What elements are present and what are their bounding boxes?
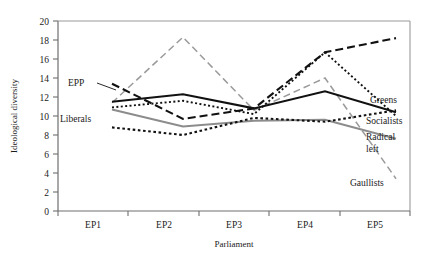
x-axis-title: Parliament — [215, 239, 254, 249]
x-cat-ep3: EP3 — [226, 220, 242, 230]
series-label-greens: Greens — [370, 95, 397, 105]
series-line-radical-left — [112, 109, 396, 138]
line-chart: 0 2 4 6 8 10 12 14 16 18 20 EP1 EP2 EP3 … — [0, 0, 437, 255]
series-label-radical-left-line1: Radical — [366, 132, 395, 142]
y-tick-4: 4 — [44, 169, 49, 179]
y-tick-2: 2 — [44, 188, 49, 198]
series-label-socialists: Socialists — [366, 116, 403, 126]
x-cat-ep5: EP5 — [367, 220, 383, 230]
series-lines — [112, 37, 396, 179]
x-cat-ep1: EP1 — [85, 220, 101, 230]
x-axis-category-labels: EP1 EP2 EP3 EP4 EP5 — [85, 220, 383, 230]
series-line-epp — [112, 38, 396, 119]
series-line-liberals — [112, 52, 396, 116]
y-tick-14: 14 — [40, 74, 50, 84]
series-label-liberals: Liberals — [60, 114, 91, 124]
y-tick-10: 10 — [40, 112, 50, 122]
y-tick-18: 18 — [40, 36, 50, 46]
y-axis-tick-labels: 0 2 4 6 8 10 12 14 16 18 20 — [40, 17, 50, 217]
y-tick-6: 6 — [44, 150, 49, 160]
y-tick-12: 12 — [40, 93, 50, 103]
x-axis-ticks — [58, 211, 410, 216]
series-label-radical-left-line2: left — [366, 144, 379, 154]
x-cat-ep4: EP4 — [297, 220, 313, 230]
y-tick-0: 0 — [44, 207, 49, 217]
y-tick-16: 16 — [40, 55, 50, 65]
y-axis-ticks — [53, 21, 58, 211]
series-line-greens — [112, 91, 396, 112]
x-cat-ep2: EP2 — [156, 220, 172, 230]
y-tick-8: 8 — [44, 131, 49, 141]
series-label-gaullists: Gaullists — [350, 178, 384, 188]
series-line-socialists — [112, 110, 396, 135]
series-labels: EPP Liberals Greens Socialists Radical l… — [60, 78, 403, 188]
y-axis-title: Ideological diversity — [9, 78, 19, 153]
y-tick-20: 20 — [40, 17, 50, 27]
chart-container: 0 2 4 6 8 10 12 14 16 18 20 EP1 EP2 EP3 … — [0, 0, 437, 255]
series-label-epp: EPP — [68, 78, 84, 88]
